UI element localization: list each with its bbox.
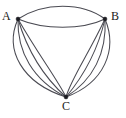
vertex-label-a: A [2, 10, 11, 22]
vertex-label-c: C [62, 100, 70, 112]
graph-vertex-a [16, 17, 20, 21]
graph-edge [18, 19, 105, 27]
edges-layer [13, 6, 109, 97]
graph-edge [18, 19, 66, 97]
vertices-layer [16, 17, 107, 99]
graph-edge [66, 19, 110, 97]
graph-diagram: A B C [0, 0, 126, 118]
vertex-label-b: B [111, 10, 119, 22]
graph-edge [13, 19, 66, 97]
graph-edge [18, 6, 105, 19]
graph-vertex-b [103, 17, 107, 21]
